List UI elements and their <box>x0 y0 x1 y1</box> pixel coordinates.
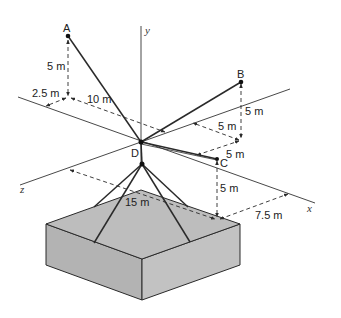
diagram-canvas: A B C D y x z 5 m 2.5 m 10 m 5 m 5 m 5 m… <box>0 0 341 318</box>
sling-ring <box>140 162 145 167</box>
axes <box>18 26 315 203</box>
label-D: D <box>131 147 139 159</box>
dim-a-z-offset: 2.5 m <box>32 87 60 99</box>
cable-diagram: A B C D y x z 5 m 2.5 m 10 m 5 m 5 m 5 m… <box>0 0 341 318</box>
dim-a-height: 5 m <box>47 60 65 72</box>
dim-b-x-offset: 5 m <box>218 120 236 132</box>
axis-label-y: y <box>144 24 150 36</box>
point-A <box>66 34 71 39</box>
dim-load-x: 7.5 m <box>255 209 283 221</box>
z-axis <box>20 142 141 185</box>
axis-label-x: x <box>306 202 312 214</box>
label-B: B <box>237 68 244 80</box>
label-A: A <box>63 22 71 34</box>
dim-load-z: 15 m <box>125 196 149 208</box>
axis-label-z: z <box>19 183 25 195</box>
cable-CD <box>141 142 217 159</box>
dimension-lines <box>46 40 288 219</box>
point-C <box>215 157 219 161</box>
point-D <box>139 140 144 145</box>
dim-b-height: 5 m <box>245 105 263 117</box>
dim-c-height: 5 m <box>220 182 238 194</box>
dim-c-offset: 5 m <box>226 148 244 160</box>
dim-a-x-offset: 10 m <box>87 93 111 105</box>
cable-AD <box>68 36 141 142</box>
point-B <box>239 80 244 85</box>
link-D <box>141 142 142 164</box>
